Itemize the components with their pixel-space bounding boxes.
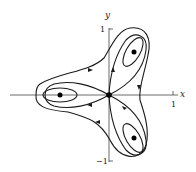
separatrix-lower-right <box>109 95 146 155</box>
y-tick-label-neg1: −1 <box>96 157 108 166</box>
axes <box>10 28 178 162</box>
direction-arrows <box>87 67 141 124</box>
saddle-point <box>106 92 112 98</box>
center-point-lower-right <box>132 136 137 141</box>
x-tick-label-1: 1 <box>171 100 176 109</box>
center-point-left <box>58 93 63 98</box>
arrow-icon <box>111 67 115 72</box>
x-axis-label: x <box>180 89 185 99</box>
arrow-icon <box>88 68 93 72</box>
phase-portrait: x y 1 1 −1 <box>0 0 196 172</box>
center-point-upper-right <box>132 50 137 55</box>
y-tick-label-1: 1 <box>100 25 105 34</box>
y-axis-label: y <box>104 10 111 20</box>
